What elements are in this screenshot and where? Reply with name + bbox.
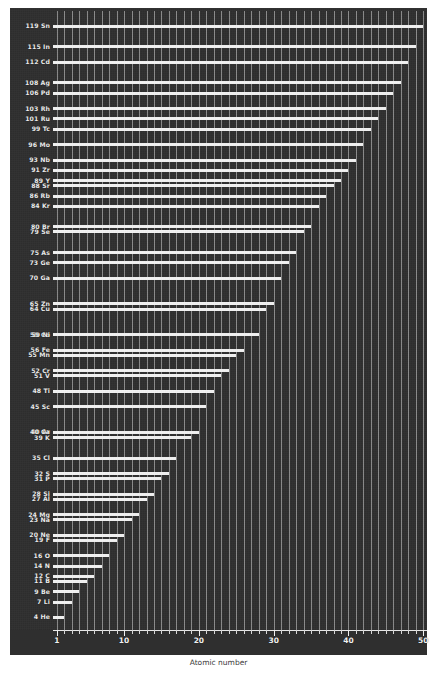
y-tick-label-c: 12 C bbox=[34, 573, 50, 579]
plot-panel: 1 H4 He7 Li9 Be11 B12 C14 N16 O19 F20 Ne… bbox=[10, 8, 427, 655]
y-tick-label-y: 89 Y bbox=[34, 177, 50, 183]
y-tick-label-ga: 70 Ga bbox=[29, 275, 50, 281]
bar-sc bbox=[53, 405, 206, 408]
x-tick-3 bbox=[72, 630, 73, 634]
gridline-36 bbox=[319, 11, 320, 638]
gridline-22 bbox=[214, 11, 215, 638]
y-tick-label-ti: 48 Ti bbox=[32, 388, 50, 394]
x-tick-21 bbox=[206, 630, 207, 634]
bar-ni bbox=[53, 333, 259, 336]
bar-na bbox=[53, 518, 132, 521]
gridline-31 bbox=[281, 11, 282, 638]
x-tick-label-10: 10 bbox=[119, 637, 129, 645]
y-tick-label-in: 115 In bbox=[28, 44, 50, 50]
y-tick-label-sc: 45 Sc bbox=[31, 404, 50, 410]
bar-ge bbox=[53, 261, 289, 264]
y-tick-label-mg: 24 Mg bbox=[28, 512, 50, 518]
gridline-38 bbox=[334, 11, 335, 638]
bar-ca bbox=[53, 431, 199, 434]
y-tick-label-cd: 112 Cd bbox=[25, 59, 50, 65]
gridline-48 bbox=[408, 11, 409, 638]
y-tick-label-ag: 108 Ag bbox=[25, 80, 50, 86]
gridline-29 bbox=[266, 11, 267, 638]
bar-cl bbox=[53, 457, 176, 460]
y-tick-label-rb: 86 Rb bbox=[30, 193, 50, 199]
x-tick-label-40: 40 bbox=[343, 637, 353, 645]
gridline-15 bbox=[161, 11, 162, 638]
x-tick-34 bbox=[304, 630, 305, 634]
x-tick-42 bbox=[363, 630, 364, 634]
bar-sr bbox=[53, 184, 334, 187]
plot-area bbox=[53, 11, 427, 638]
x-tick-16 bbox=[169, 630, 170, 634]
x-tick-label-50: 50 bbox=[418, 637, 428, 645]
bar-zr bbox=[53, 169, 348, 172]
gridline-39 bbox=[341, 11, 342, 638]
x-tick-4 bbox=[79, 630, 80, 634]
x-tick-12 bbox=[139, 630, 140, 634]
x-tick-44 bbox=[378, 630, 379, 634]
bar-k bbox=[53, 436, 191, 439]
x-tick-25 bbox=[236, 630, 237, 634]
x-tick-7 bbox=[102, 630, 103, 634]
gridline-43 bbox=[371, 11, 372, 638]
bar-be bbox=[53, 590, 79, 593]
x-tick-46 bbox=[393, 630, 394, 634]
bar-mo bbox=[53, 143, 363, 146]
gridline-21 bbox=[206, 11, 207, 638]
x-tick-38 bbox=[334, 630, 335, 634]
gridline-35 bbox=[311, 11, 312, 638]
y-tick-label-li: 7 Li bbox=[37, 599, 50, 605]
gridline-32 bbox=[289, 11, 290, 638]
bar-n bbox=[53, 565, 102, 568]
x-tick-19 bbox=[191, 630, 192, 634]
y-tick-label-kr: 84 Kr bbox=[31, 203, 50, 209]
x-tick-label-1: 1 bbox=[54, 637, 59, 645]
bar-ti bbox=[53, 390, 214, 393]
y-tick-label-br: 80 Br bbox=[31, 224, 50, 230]
x-tick-label-30: 30 bbox=[268, 637, 278, 645]
bar-b bbox=[53, 580, 87, 583]
bar-mn bbox=[53, 354, 236, 357]
gridline-28 bbox=[259, 11, 260, 638]
x-tick-9 bbox=[117, 630, 118, 634]
bar-he bbox=[53, 616, 64, 619]
bar-o bbox=[53, 554, 109, 557]
gridline-49 bbox=[416, 11, 417, 638]
x-tick-24 bbox=[229, 630, 230, 634]
x-tick-18 bbox=[184, 630, 185, 634]
gridline-46 bbox=[393, 11, 394, 638]
bar-cr bbox=[53, 369, 229, 372]
y-tick-label-ru: 101 Ru bbox=[25, 116, 50, 122]
x-tick-17 bbox=[176, 630, 177, 634]
chart-canvas: 1 H4 He7 Li9 Be11 B12 C14 N16 O19 F20 Ne… bbox=[0, 0, 437, 678]
gridline-16 bbox=[169, 11, 170, 638]
x-tick-35 bbox=[311, 630, 312, 634]
bar-br bbox=[53, 225, 311, 228]
bar-si bbox=[53, 493, 154, 496]
y-tick-label-he: 4 He bbox=[34, 614, 50, 620]
gridline-40 bbox=[348, 11, 349, 638]
x-tick-label-20: 20 bbox=[194, 637, 204, 645]
gridline-47 bbox=[401, 11, 402, 638]
bar-kr bbox=[53, 205, 319, 208]
bar-rh bbox=[53, 107, 386, 110]
bar-s bbox=[53, 472, 169, 475]
bar-tc bbox=[53, 128, 371, 131]
x-tick-2 bbox=[64, 630, 65, 634]
gridline-24 bbox=[229, 11, 230, 638]
bar-zn bbox=[53, 302, 274, 305]
bar-y bbox=[53, 179, 341, 182]
x-tick-26 bbox=[244, 630, 245, 634]
x-tick-31 bbox=[281, 630, 282, 634]
gridline-7 bbox=[102, 11, 103, 638]
gridline-3 bbox=[72, 11, 73, 638]
y-tick-label-ni: 59 Ni bbox=[31, 332, 50, 338]
gridline-25 bbox=[236, 11, 237, 638]
gridline-8 bbox=[109, 11, 110, 638]
x-tick-47 bbox=[401, 630, 402, 634]
x-tick-41 bbox=[356, 630, 357, 634]
x-tick-32 bbox=[289, 630, 290, 634]
gridline-37 bbox=[326, 11, 327, 638]
x-tick-6 bbox=[94, 630, 95, 634]
